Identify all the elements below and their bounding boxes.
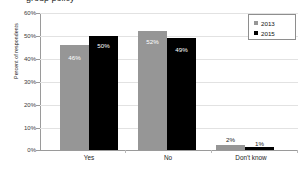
- bar-dontknow-2013: [216, 145, 245, 150]
- x-axis-separator-1: [125, 150, 126, 153]
- chart-legend: 2013 2015: [248, 14, 296, 40]
- y-tick-label-60: 60%: [2, 10, 36, 17]
- x-axis-separator-2: [211, 150, 212, 153]
- y-tick-label-30: 30%: [2, 79, 36, 86]
- legend-swatch-2015-icon: [254, 31, 258, 35]
- y-tick-label-0: 0%: [2, 147, 36, 154]
- legend-item-2015[interactable]: 2015: [254, 28, 295, 38]
- x-category-label-dontknow: Don't know: [217, 154, 285, 161]
- chart-title-cutoff: group policy: [26, 0, 146, 3]
- y-tick-label-40: 40%: [2, 56, 36, 63]
- bar-dontknow-2015: [245, 147, 274, 150]
- value-label-no-2013: 52%: [138, 38, 167, 45]
- y-tick-label-20: 20%: [2, 102, 36, 109]
- value-label-dontknow-2015: 1%: [245, 140, 274, 147]
- bar-no-2013: [138, 31, 167, 150]
- legend-label-2013: 2013: [261, 20, 275, 27]
- value-label-no-2015: 49%: [167, 46, 196, 53]
- y-tick-label-50: 50%: [2, 33, 36, 40]
- bar-chart: group policy Percent of respondents 60% …: [0, 0, 304, 169]
- legend-label-2015: 2015: [261, 30, 275, 37]
- x-category-label-yes: Yes: [60, 154, 118, 161]
- y-tick-label-10: 10%: [2, 125, 36, 132]
- value-label-yes-2013: 46%: [60, 54, 89, 61]
- legend-item-2013[interactable]: 2013: [254, 18, 295, 28]
- legend-swatch-2013-icon: [254, 21, 258, 25]
- chart-title-text: group policy: [26, 0, 146, 3]
- bar-yes-2015: [89, 36, 118, 150]
- y-axis-tick-labels: 60% 50% 40% 30% 20% 10% 0%: [0, 0, 36, 169]
- bar-no-2015: [167, 38, 196, 150]
- x-axis-separator-3: [297, 150, 298, 153]
- x-category-label-no: No: [139, 154, 197, 161]
- x-axis-line: [40, 150, 298, 151]
- value-label-yes-2015: 50%: [89, 42, 118, 49]
- value-label-dontknow-2013: 2%: [216, 136, 245, 143]
